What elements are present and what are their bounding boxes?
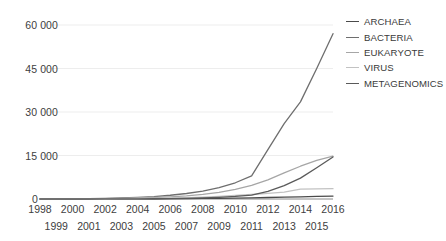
x-tick-label-2016: 2016: [318, 203, 348, 215]
series-line-eukaryote: [40, 156, 333, 199]
series-line-metagenomics: [40, 157, 333, 199]
x-tick-label-2014: 2014: [285, 203, 315, 215]
legend-item-bacteria[interactable]: BACTERIA: [346, 29, 446, 44]
legend-item-label: VIRUS: [364, 62, 394, 73]
x-tick-label-2005: 2005: [139, 220, 169, 232]
series-lines: [40, 34, 333, 199]
legend-item-label: ARCHAEA: [364, 16, 411, 27]
x-tick-label-2011: 2011: [237, 220, 267, 232]
x-tick-label-2007: 2007: [172, 220, 202, 232]
x-tick-label-2008: 2008: [188, 203, 218, 215]
x-tick-label-2013: 2013: [269, 220, 299, 232]
legend-item-label: EUKARYOTE: [364, 47, 424, 58]
y-tick-label-45000: 45 000: [0, 63, 58, 75]
x-tick-label-2004: 2004: [123, 203, 153, 215]
chart-legend: ARCHAEABACTERIAEUKARYOTEVIRUSMETAGENOMIC…: [346, 14, 446, 91]
legend-swatch-icon: [346, 52, 359, 53]
x-tick-label-2010: 2010: [220, 203, 250, 215]
y-tick-label-60000: 60 000: [0, 19, 58, 31]
x-tick-label-2012: 2012: [253, 203, 283, 215]
x-tick-label-2009: 2009: [204, 220, 234, 232]
legend-item-eukaryote[interactable]: EUKARYOTE: [346, 45, 446, 60]
legend-swatch-icon: [346, 83, 359, 84]
legend-item-archaea[interactable]: ARCHAEA: [346, 14, 446, 29]
x-tick-label-2015: 2015: [302, 220, 332, 232]
x-tick-label-2001: 2001: [74, 220, 104, 232]
legend-swatch-icon: [346, 21, 359, 22]
y-tick-label-30000: 30 000: [0, 106, 58, 118]
legend-item-label: BACTERIA: [364, 32, 413, 43]
legend-swatch-icon: [346, 67, 359, 68]
x-tick-label-2000: 2000: [58, 203, 88, 215]
legend-item-metagenomics[interactable]: METAGENOMICS: [346, 76, 446, 91]
x-tick-label-1998: 1998: [25, 203, 55, 215]
x-tick-label-1999: 1999: [41, 220, 71, 232]
y-tick-label-15000: 15 000: [0, 150, 58, 162]
legend-item-label: METAGENOMICS: [364, 78, 443, 89]
x-tick-label-2003: 2003: [106, 220, 136, 232]
line-chart: 60 000 45 000 30 000 15 000 0 1998200020…: [0, 0, 446, 241]
legend-swatch-icon: [346, 37, 359, 38]
x-tick-label-2006: 2006: [155, 203, 185, 215]
legend-item-virus[interactable]: VIRUS: [346, 60, 446, 75]
series-line-bacteria: [40, 34, 333, 199]
gridlines: [40, 25, 333, 156]
x-tick-label-2002: 2002: [90, 203, 120, 215]
